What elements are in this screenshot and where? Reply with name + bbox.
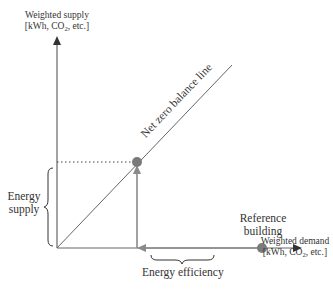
net-zero-point	[132, 157, 142, 167]
x-axis-label-line2: [kWh, CO2, etc.]	[250, 247, 333, 258]
x-unit-pre: [kWh, CO	[263, 247, 303, 257]
reference-building-label: Reference building	[228, 212, 298, 238]
energy-supply-brace	[44, 168, 53, 246]
energy-supply-label: Energy supply	[4, 190, 44, 216]
energy-efficiency-brace	[151, 255, 214, 264]
x-axis-label: Weighted demand [kWh, CO2, etc.]	[250, 236, 333, 258]
y-axis-arrowhead	[53, 36, 61, 45]
y-unit-pre: [kWh, CO	[25, 21, 65, 31]
energy-supply-line2: supply	[4, 203, 44, 216]
energy-efficiency-label: Energy efficiency	[142, 266, 224, 279]
y-unit-post: , etc.]	[68, 21, 89, 31]
x-unit-post: , etc.]	[306, 247, 327, 257]
y-axis-label-line1: Weighted supply	[20, 10, 94, 21]
net-zero-balance-line	[57, 65, 232, 248]
reference-building-line1: Reference	[228, 212, 298, 225]
energy-supply-line1: Energy	[4, 190, 44, 203]
efficiency-arrowhead-icon	[137, 244, 146, 252]
reference-building-line2: building	[228, 225, 298, 238]
y-axis-label-line2: [kWh, CO2, etc.]	[20, 21, 94, 32]
y-axis-label: Weighted supply [kWh, CO2, etc.]	[20, 10, 94, 32]
